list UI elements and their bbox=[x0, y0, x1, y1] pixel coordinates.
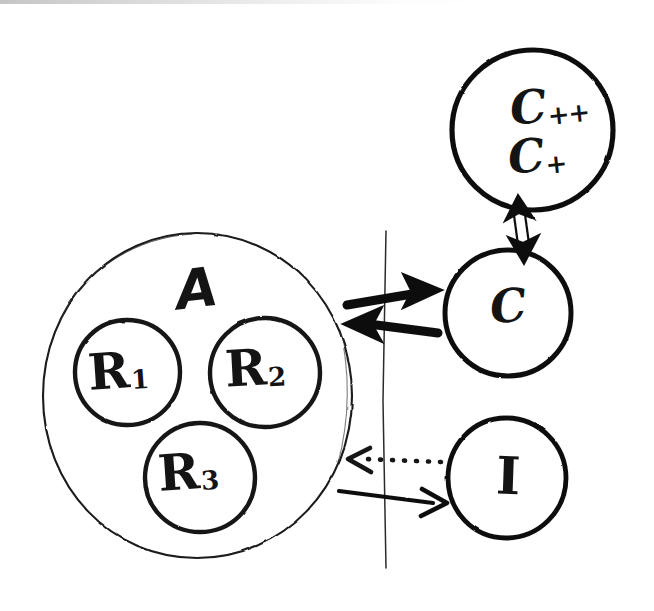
label-C-plus-superscript: + bbox=[544, 148, 568, 180]
label-C-plus-plus-superscript: ++ bbox=[546, 97, 590, 131]
diagram-canvas: A R1 R2 R3 C++ C+ C I bbox=[0, 0, 654, 611]
label-A: A bbox=[173, 260, 221, 319]
label-C: C bbox=[488, 281, 529, 331]
label-C-plus-plus-base: C bbox=[507, 78, 549, 136]
label-R2: R2 bbox=[224, 341, 287, 394]
label-C-plus: C+ bbox=[506, 129, 568, 182]
label-R2-base: R bbox=[223, 337, 268, 398]
edge-C-to-A-arrow[interactable] bbox=[344, 308, 438, 341]
label-R1-subscript: 1 bbox=[130, 364, 150, 395]
label-R3: R3 bbox=[156, 445, 220, 499]
label-R2-subscript: 2 bbox=[267, 361, 287, 392]
label-I: I bbox=[495, 450, 521, 503]
label-R1: R1 bbox=[86, 344, 150, 398]
edge-A-to-I-arrow[interactable] bbox=[339, 489, 447, 516]
edge-A-to-C-arrow[interactable] bbox=[347, 275, 441, 307]
vertical-boundary-line bbox=[383, 231, 386, 568]
label-R3-base: R bbox=[156, 441, 202, 503]
label-C-plus-plus: C++ bbox=[508, 78, 591, 133]
label-C-plus-base: C bbox=[505, 127, 547, 185]
label-R3-subscript: 3 bbox=[200, 465, 220, 496]
label-R1-base: R bbox=[86, 340, 132, 402]
edge-I-to-A-dotted-arrow[interactable] bbox=[348, 448, 441, 472]
